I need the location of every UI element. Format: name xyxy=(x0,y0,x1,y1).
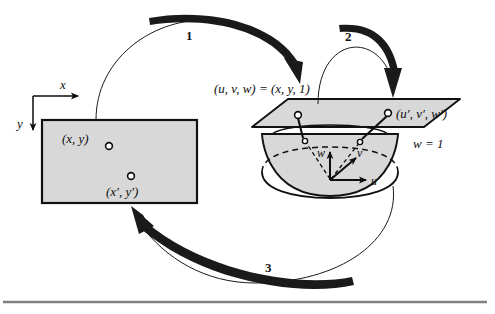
x-axis-label: x xyxy=(59,77,66,92)
arrow-3-body-thick xyxy=(140,222,354,289)
image-point-xy-prime-label: (x′, y′) xyxy=(106,184,138,199)
plane-point-uvw-prime-marker xyxy=(385,110,392,117)
w-axis-label: w xyxy=(317,146,325,160)
ray-right-sphere-point xyxy=(357,139,362,144)
arrow-1-label: 1 xyxy=(186,28,193,43)
figure-canvas: x y (x, y) (x′, y′) xyxy=(0,0,495,314)
arrow-1-group: 1 xyxy=(96,15,303,120)
ray-left-sphere-point xyxy=(302,138,307,143)
y-axis-label: y xyxy=(15,116,23,131)
arrow-2-label: 2 xyxy=(345,29,352,44)
arrow-3-label: 3 xyxy=(265,260,272,275)
u-axis-label: u xyxy=(371,174,377,188)
homogeneous-equation-label: (u, v, w) = (x, y, 1) xyxy=(214,81,310,96)
plane-level-label: w = 1 xyxy=(413,136,443,151)
arrow-2-group: 2 xyxy=(318,25,402,104)
image-point-xy-prime-marker xyxy=(128,173,135,180)
arrow-2-tail-thin xyxy=(318,47,390,104)
v-axis-label: v xyxy=(357,146,363,160)
arrow-1-body-thick xyxy=(149,15,298,66)
plane-point-uvw-prime-label: (u′, v′, w′) xyxy=(396,106,447,121)
image-point-xy-label: (x, y) xyxy=(62,131,89,146)
plane-point-uvw-marker xyxy=(295,112,302,119)
image-rectangle: (x, y) (x′, y′) xyxy=(42,120,197,203)
image-point-xy-marker xyxy=(106,143,113,150)
arrow-2-head xyxy=(384,68,402,98)
